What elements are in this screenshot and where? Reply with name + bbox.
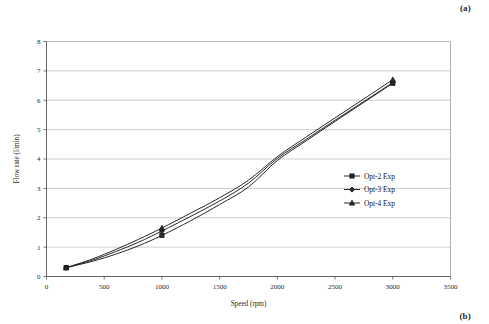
x-tick-label: 500 bbox=[99, 283, 110, 291]
chart-legend: Opt-2 ExpOpt-3 ExpOpt-4 Exp bbox=[344, 172, 395, 208]
y-tick-label: 2 bbox=[37, 214, 41, 222]
square-marker bbox=[350, 174, 354, 178]
x-tick-label: 2000 bbox=[270, 283, 285, 291]
x-axis-title: Speed (rpm) bbox=[231, 300, 267, 308]
series-line-opt-4-exp bbox=[66, 80, 393, 268]
flow-rate-vs-speed-chart: 012345678 0500100015002000250030003500 O… bbox=[0, 0, 489, 324]
figure-root: (a) 012345678 05001000150020002500300035… bbox=[0, 0, 489, 324]
x-tick-label: 2500 bbox=[328, 283, 343, 291]
legend-item[interactable]: Opt-4 Exp bbox=[344, 199, 395, 208]
x-tick-label: 3000 bbox=[386, 283, 401, 291]
y-tick-label: 8 bbox=[37, 38, 41, 46]
y-axis-tick-labels: 012345678 bbox=[37, 38, 41, 281]
legend-label: Opt-4 Exp bbox=[364, 199, 395, 208]
axis-ticks-group bbox=[44, 42, 451, 280]
x-tick-label: 1000 bbox=[155, 283, 170, 291]
y-tick-label: 1 bbox=[37, 244, 41, 252]
x-axis-tick-labels: 0500100015002000250030003500 bbox=[45, 283, 458, 291]
series-line-opt-3-exp bbox=[66, 83, 393, 268]
triangle-marker bbox=[159, 225, 164, 230]
x-tick-label: 0 bbox=[45, 283, 49, 291]
gridlines-group bbox=[47, 42, 451, 248]
x-tick-label: 1500 bbox=[213, 283, 228, 291]
legend-label: Opt-2 Exp bbox=[364, 172, 395, 181]
legend-label: Opt-3 Exp bbox=[364, 185, 395, 194]
y-axis-title: Flow rate (l/min) bbox=[13, 134, 21, 184]
diamond-marker bbox=[350, 187, 355, 192]
panel-label-b: (b) bbox=[459, 311, 471, 321]
y-tick-label: 7 bbox=[37, 67, 41, 75]
data-markers-group bbox=[63, 77, 395, 270]
y-tick-label: 4 bbox=[37, 155, 41, 163]
series-line-opt-2-exp bbox=[66, 83, 393, 267]
y-tick-label: 6 bbox=[37, 97, 41, 105]
y-tick-label: 3 bbox=[37, 185, 41, 193]
triangle-marker bbox=[390, 77, 395, 82]
data-series-group bbox=[66, 80, 393, 268]
legend-item[interactable]: Opt-2 Exp bbox=[344, 172, 395, 181]
x-tick-label: 3500 bbox=[444, 283, 459, 291]
y-tick-label: 5 bbox=[37, 126, 41, 134]
y-tick-label: 0 bbox=[37, 273, 41, 281]
legend-item[interactable]: Opt-3 Exp bbox=[344, 185, 395, 194]
